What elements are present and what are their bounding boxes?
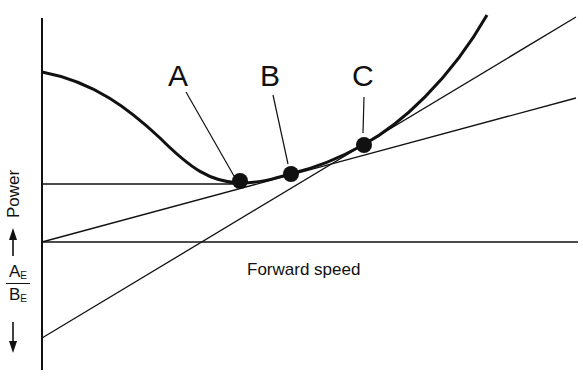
leader-line-c (363, 97, 364, 133)
y-axis-label: Power (4, 170, 24, 218)
x-axis-label: Forward speed (247, 260, 360, 280)
tangent-line-c (42, 17, 576, 338)
point-b-label: B (260, 61, 280, 91)
ratio-numerator: AE (6, 262, 30, 284)
power-curve (42, 15, 487, 183)
leader-line-a (186, 92, 234, 176)
leader-line-b (273, 95, 288, 164)
arrow-up-icon (9, 228, 17, 240)
point-c-marker (356, 137, 372, 153)
power-speed-diagram (0, 0, 583, 384)
point-c-label: C (352, 61, 374, 91)
point-a-marker (232, 173, 248, 189)
arrow-down-icon (9, 341, 17, 353)
ratio-denominator: BE (6, 284, 30, 305)
point-a-label: A (168, 61, 188, 91)
ratio-label: AE BE (6, 262, 30, 305)
point-b-marker (283, 166, 299, 182)
